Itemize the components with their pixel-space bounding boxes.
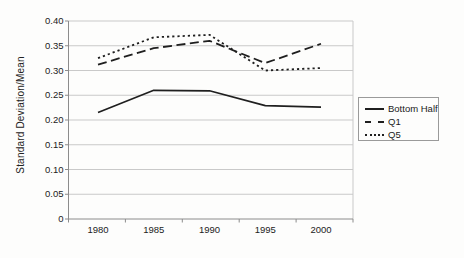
y-tick-label: 0.40: [45, 15, 64, 26]
dotted-line-icon: [365, 134, 384, 136]
y-tick-label: 0.25: [45, 89, 64, 100]
chart-figure: 00.050.100.150.200.250.300.350.401980198…: [0, 0, 464, 258]
x-tick-label: 1985: [143, 224, 164, 235]
legend-item-q1: Q1: [365, 115, 438, 128]
x-tick-label: 2000: [310, 224, 331, 235]
solid-line-icon: [365, 108, 384, 110]
legend-label-bottom-half: Bottom Half: [388, 103, 438, 114]
legend-label-q1: Q1: [388, 116, 401, 127]
legend-item-q5: Q5: [365, 128, 438, 141]
series-line-bottom-half: [98, 90, 321, 112]
y-tick-label: 0.20: [45, 114, 64, 125]
x-tick-label: 1980: [87, 224, 108, 235]
y-axis-title: Standard Deviation/Mean: [15, 56, 26, 173]
y-tick-label: 0.30: [45, 65, 64, 76]
y-tick-label: 0.10: [45, 164, 64, 175]
y-tick-label: 0.35: [45, 40, 64, 51]
x-tick-label: 1995: [255, 224, 276, 235]
legend: Bottom Half Q1 Q5: [358, 97, 439, 141]
legend-label-q5: Q5: [388, 129, 401, 140]
x-tick-label: 1990: [199, 224, 220, 235]
y-tick-label: 0.15: [45, 139, 64, 150]
series-line-q1: [98, 41, 321, 65]
dashed-line-icon: [365, 121, 384, 123]
y-tick-label: 0.05: [45, 188, 64, 199]
legend-item-bottom-half: Bottom Half: [365, 102, 438, 115]
y-tick-label: 0: [58, 213, 63, 224]
